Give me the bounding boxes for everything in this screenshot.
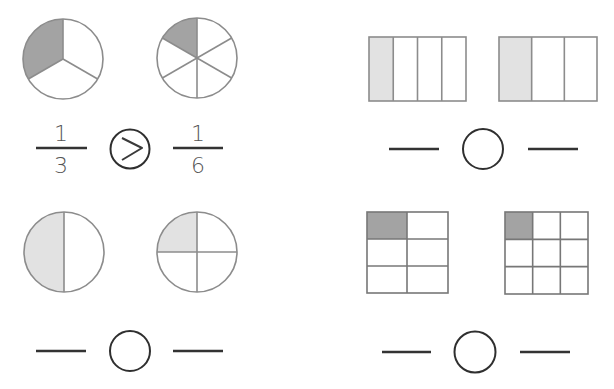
shaded-ninth <box>505 212 533 239</box>
circle-halves-model <box>24 212 104 292</box>
shaded-sixth <box>367 212 407 239</box>
grid-sixths-model <box>367 212 448 293</box>
left-numerator: 1 <box>54 121 68 146</box>
comparison-circle[interactable] <box>110 331 150 371</box>
comparison-circle[interactable] <box>455 332 496 373</box>
right-numerator: 1 <box>191 121 205 146</box>
answer-row-4 <box>382 332 570 373</box>
greater-than-icon <box>122 138 142 160</box>
shaded-sixth <box>162 18 197 58</box>
problem-2 <box>369 37 597 169</box>
problem-3 <box>24 212 237 371</box>
comparison-circle[interactable] <box>111 130 150 169</box>
fraction-worksheet: 1 3 1 6 <box>0 0 614 389</box>
right-denominator: 6 <box>191 153 205 178</box>
answer-row-3 <box>36 331 223 371</box>
shaded-third <box>499 37 532 101</box>
circle-fourths-model <box>157 212 237 292</box>
circle-sixths-model <box>157 18 237 98</box>
grid-ninths-model <box>505 212 588 294</box>
answer-row-1: 1 3 1 6 <box>36 121 223 178</box>
comparison-circle[interactable] <box>463 129 503 169</box>
problem-4 <box>367 212 588 373</box>
answer-row-2 <box>389 129 578 169</box>
circle-thirds-model <box>23 19 103 99</box>
left-denominator: 3 <box>54 153 68 178</box>
problem-1: 1 3 1 6 <box>23 18 237 178</box>
shaded-half <box>24 212 64 292</box>
shaded-fourth <box>369 37 393 101</box>
strip-thirds-model <box>499 37 597 101</box>
strip-fourths-model <box>369 37 466 101</box>
